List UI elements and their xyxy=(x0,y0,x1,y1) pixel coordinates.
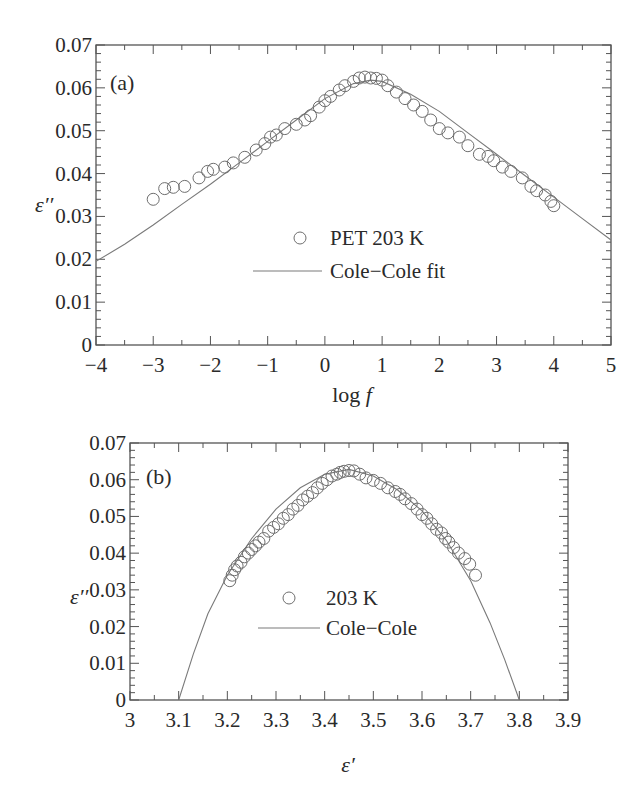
y-tick-label: 0.07 xyxy=(55,33,92,57)
panel-a-legend: PET 203 K Cole−Cole fit xyxy=(253,226,445,283)
legend-label-data: PET 203 K xyxy=(330,226,424,250)
chart-svg: −4−3−2−101234500.010.020.030.040.050.060… xyxy=(0,0,634,786)
legend-label-fit: Cole−Cole xyxy=(326,616,417,640)
x-tick-label: 3.4 xyxy=(312,708,339,732)
y-tick-label: 0.01 xyxy=(89,651,126,675)
y-tick-label: 0.04 xyxy=(55,162,92,186)
data-point xyxy=(408,99,420,111)
legend-marker-icon xyxy=(283,592,295,604)
data-point xyxy=(473,148,485,160)
panel-a: −4−3−2−101234500.010.020.030.040.050.060… xyxy=(35,33,616,407)
y-tick-label: 0.03 xyxy=(89,578,126,602)
y-tick-label: 0.05 xyxy=(89,504,126,528)
legend-marker-icon xyxy=(294,232,306,244)
legend-label-data: 203 K xyxy=(326,586,378,610)
y-tick-label: 0.02 xyxy=(55,247,92,271)
y-tick-label: 0.06 xyxy=(89,468,126,492)
y-tick-label: 0.04 xyxy=(89,541,126,565)
x-axis-title: ε′ xyxy=(341,752,356,777)
data-point xyxy=(311,482,323,494)
x-axis-title-var: f xyxy=(366,382,375,407)
x-tick-label: 3.1 xyxy=(166,708,192,732)
panel-a-data-markers xyxy=(147,71,560,212)
data-point xyxy=(250,540,262,552)
data-point xyxy=(382,482,394,494)
data-point xyxy=(399,93,411,105)
y-tick-label: 0.07 xyxy=(89,431,126,455)
data-point xyxy=(167,181,179,193)
data-point xyxy=(242,547,254,559)
plot-frame xyxy=(96,45,611,345)
y-tick-label: 0.05 xyxy=(55,119,92,143)
panel-b: 33.13.23.33.43.53.63.73.83.900.010.020.0… xyxy=(70,431,581,777)
x-tick-label: 3.6 xyxy=(409,708,435,732)
data-point xyxy=(147,193,159,205)
x-tick-label: 3.3 xyxy=(263,708,289,732)
x-tick-label: 3.5 xyxy=(360,708,386,732)
x-tick-label: −1 xyxy=(256,353,278,377)
x-tick-label: −3 xyxy=(142,353,164,377)
x-axis-title-base: log xyxy=(332,382,366,407)
legend-label-fit: Cole−Cole fit xyxy=(330,259,445,283)
y-axis-title: ε′′ xyxy=(70,584,89,609)
y-tick-label: 0.03 xyxy=(55,204,92,228)
data-point xyxy=(193,172,205,184)
data-point xyxy=(246,544,258,556)
data-point xyxy=(375,477,387,489)
x-tick-label: 3.2 xyxy=(214,708,240,732)
y-tick-label: 0 xyxy=(82,333,93,357)
data-point xyxy=(462,140,474,152)
fit-curve xyxy=(179,469,520,700)
data-point xyxy=(239,151,251,163)
x-tick-label: 1 xyxy=(377,353,388,377)
panel-label: (a) xyxy=(110,70,134,95)
panel-b-fit-line xyxy=(179,469,520,700)
data-point xyxy=(179,180,191,192)
x-tick-label: 3 xyxy=(491,353,502,377)
y-tick-label: 0.01 xyxy=(55,290,92,314)
x-tick-label: 3.7 xyxy=(458,708,484,732)
y-axis-title: ε′′ xyxy=(35,192,54,217)
panel-b-legend: 203 K Cole−Cole xyxy=(258,586,417,640)
x-axis-title: log f xyxy=(332,382,375,407)
data-point xyxy=(470,569,482,581)
data-point xyxy=(548,200,560,212)
x-tick-label: 3 xyxy=(125,708,136,732)
x-tick-label: 5 xyxy=(606,353,617,377)
panel-label: (b) xyxy=(146,464,172,489)
x-tick-label: 4 xyxy=(549,353,560,377)
plot-frame xyxy=(130,443,568,700)
y-tick-label: 0.02 xyxy=(89,615,126,639)
x-tick-label: 0 xyxy=(320,353,331,377)
y-tick-label: 0.06 xyxy=(55,76,92,100)
x-tick-label: 3.9 xyxy=(555,708,581,732)
figure: −4−3−2−101234500.010.020.030.040.050.060… xyxy=(0,0,634,786)
x-tick-label: −2 xyxy=(199,353,221,377)
x-tick-label: 2 xyxy=(434,353,445,377)
x-tick-label: 3.8 xyxy=(506,708,532,732)
data-point xyxy=(159,183,171,195)
y-tick-label: 0 xyxy=(116,688,127,712)
